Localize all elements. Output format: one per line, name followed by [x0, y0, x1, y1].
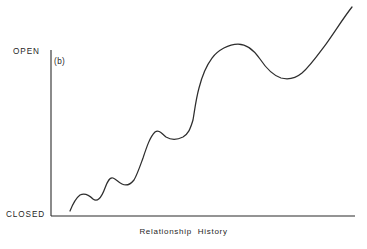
panel-label: (b)	[54, 58, 65, 66]
x-axis-title-word-1: Relationship	[139, 227, 191, 236]
chart-canvas	[0, 0, 367, 249]
x-axis-title: RelationshipHistory	[0, 228, 367, 236]
y-axis-top-label: OPEN	[13, 48, 40, 56]
y-axis-bottom-label: CLOSED	[6, 211, 45, 219]
relationship-history-figure: OPEN CLOSED (b) RelationshipHistory	[0, 0, 367, 249]
openness-curve	[70, 7, 352, 211]
x-axis-title-word-2: History	[198, 227, 228, 236]
